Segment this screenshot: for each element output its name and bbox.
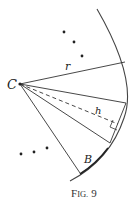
ellipsis-dot [73,41,76,44]
ellipsis-dot [46,147,49,150]
label-center-c: C [7,77,17,92]
figure-9-diagram: C r h B FIG.9 [0,0,138,203]
ellipsis-dot [33,151,36,154]
label-base-b: B [83,153,92,166]
radius-r [20,62,125,84]
center-point [18,82,21,85]
ellipsis-dot [20,153,23,156]
radius-2 [20,84,126,103]
ellipsis-dot [63,31,66,34]
chord-1 [110,103,126,143]
radius-4 [20,84,80,173]
figure-caption: FIG.9 [71,187,97,199]
ellipsis-dot [81,55,84,58]
circle-arc [70,9,128,181]
label-radius-r: r [65,60,71,73]
label-height-h: h [95,105,101,116]
height-dashed-line [20,84,118,124]
